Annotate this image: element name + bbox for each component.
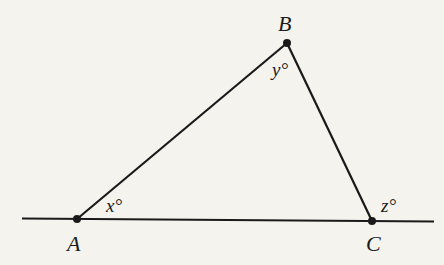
segment-bc — [287, 43, 372, 221]
label-b: B — [278, 11, 291, 36]
label-a: A — [65, 231, 81, 256]
triangle-diagram: B A C x° y° z° — [0, 0, 444, 265]
angle-label-y: y° — [270, 59, 288, 80]
point-c — [368, 217, 376, 225]
label-c: C — [366, 231, 381, 256]
angle-label-x: x° — [105, 195, 122, 216]
point-b — [283, 39, 291, 47]
point-a — [73, 215, 81, 223]
segment-ab — [77, 43, 287, 219]
angle-label-z: z° — [380, 195, 396, 216]
